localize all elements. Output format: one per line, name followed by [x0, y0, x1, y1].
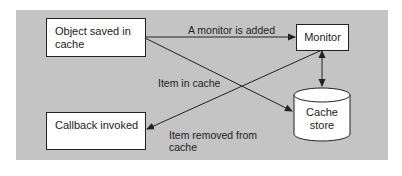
edge-label-item-removed: Item removed from cache: [169, 129, 257, 153]
node-monitor: Monitor: [296, 24, 349, 51]
node-object-saved: Object saved in cache: [46, 18, 146, 57]
cache-store-line2: store: [294, 119, 350, 132]
edge-label-monitor-added: A monitor is added: [188, 24, 275, 36]
node-cache-store-label: Cache store: [294, 106, 350, 132]
edge-label-item-removed-line1: Item removed from: [169, 129, 257, 141]
node-callback-label: Callback invoked: [55, 119, 138, 131]
edge-label-item-removed-line2: cache: [169, 141, 257, 153]
edge-label-item-in-cache: Item in cache: [158, 77, 220, 89]
node-monitor-label: Monitor: [304, 31, 341, 44]
cache-store-line1: Cache: [294, 106, 350, 119]
edge-item-in-cache: [145, 38, 292, 111]
node-object-saved-line2: cache: [55, 38, 145, 51]
node-object-saved-line1: Object saved in: [55, 25, 145, 38]
node-callback: Callback invoked: [46, 112, 146, 150]
